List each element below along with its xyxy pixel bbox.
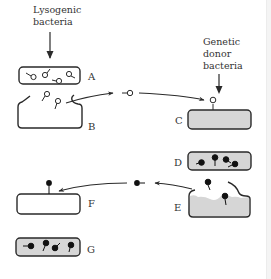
phage-empty-icon bbox=[42, 91, 61, 109]
panel-label-A: A bbox=[87, 71, 96, 82]
svg-text:bacteria: bacteria bbox=[33, 16, 73, 27]
genetic-donor-bacteria-label: Genetic donor bacteria bbox=[203, 36, 243, 71]
cell-G bbox=[16, 238, 80, 256]
arrow-icon bbox=[139, 93, 204, 100]
phage-empty-icon bbox=[210, 97, 216, 103]
svg-text:Lysogenic: Lysogenic bbox=[33, 4, 81, 15]
page-edge bbox=[266, 0, 271, 279]
cell-D bbox=[188, 152, 251, 170]
lysogenic-bacteria-label: Lysogenic bacteria bbox=[33, 4, 81, 27]
panel-label-E: E bbox=[174, 202, 181, 213]
free-phage-filled-icon bbox=[134, 180, 145, 186]
panel-label-C: C bbox=[175, 115, 183, 126]
down-arrow-icon bbox=[47, 32, 54, 59]
cell-C bbox=[188, 97, 251, 129]
down-arrow-icon bbox=[216, 74, 223, 94]
svg-text:Genetic: Genetic bbox=[203, 36, 240, 47]
panel-label-G: G bbox=[87, 244, 95, 255]
free-phage-empty-icon bbox=[122, 90, 133, 95]
svg-text:bacteria: bacteria bbox=[203, 60, 243, 71]
cell-B bbox=[18, 91, 82, 128]
panel-label-D: D bbox=[174, 157, 182, 168]
cell-E bbox=[188, 179, 250, 217]
transduction-diagram: Lysogenic bacteria A B Genetic bbox=[0, 0, 271, 279]
panel-label-F: F bbox=[88, 198, 95, 209]
phage-filled-icon bbox=[46, 180, 52, 186]
panel-label-B: B bbox=[88, 121, 95, 132]
arrow-icon bbox=[155, 183, 192, 189]
cell-F bbox=[17, 180, 80, 214]
cell-A bbox=[19, 67, 80, 84]
arrow-icon bbox=[59, 183, 127, 191]
svg-text:donor: donor bbox=[203, 48, 232, 59]
